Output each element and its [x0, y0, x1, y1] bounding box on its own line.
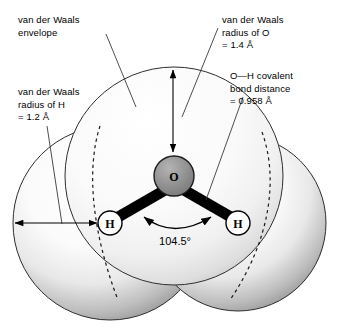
- label-oh-bond-distance: O—H covalent bond distance = 0.958 Å: [230, 70, 293, 108]
- vdw-water-diagram: O H H 104.5° van der Waals envelope van …: [0, 0, 340, 334]
- atom-hydrogen-right-label: H: [233, 217, 243, 231]
- label-vdw-radius-oxygen: van der Waals radius of O = 1.4 Å: [222, 14, 284, 52]
- molecule-illustration: O H H 104.5°: [0, 0, 340, 334]
- label-vdw-envelope: van der Waals envelope: [18, 14, 80, 39]
- atom-hydrogen-left-label: H: [105, 217, 115, 231]
- atom-oxygen-label: O: [169, 170, 178, 184]
- bond-angle-value: 104.5°: [159, 235, 191, 247]
- label-vdw-radius-hydrogen: van der Waals radius of H = 1.2 Å: [18, 86, 80, 124]
